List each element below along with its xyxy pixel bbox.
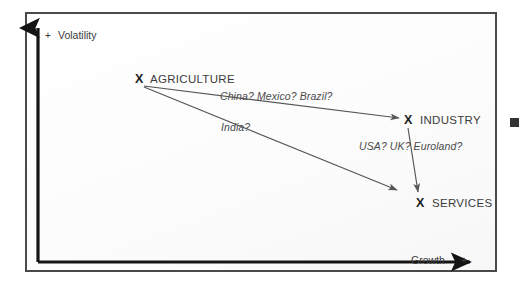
annotation-industry-services: USA? UK? Euroland? [359, 141, 462, 152]
node-label-industry: INDUSTRY [420, 115, 481, 127]
x-axis-label: Growth [411, 255, 445, 266]
annotation-agriculture-services: India? [221, 122, 250, 133]
diagram-canvas: + Volatility Growth + X AGRICULTURE X IN… [0, 0, 521, 286]
y-axis-sign: + [45, 31, 51, 41]
node-marker-industry: X [404, 114, 412, 127]
y-axis-label: Volatility [58, 30, 97, 41]
annotation-agriculture-industry: China? Mexico? Brazil? [220, 91, 333, 102]
node-marker-agriculture: X [135, 73, 143, 86]
node-label-services: SERVICES [432, 198, 492, 210]
arrow-industry-to-services [408, 128, 418, 192]
node-marker-services: X [416, 197, 424, 210]
bullet-marker-icon [510, 118, 519, 127]
node-label-agriculture: AGRICULTURE [150, 74, 235, 86]
x-axis-sign: + [461, 256, 467, 266]
